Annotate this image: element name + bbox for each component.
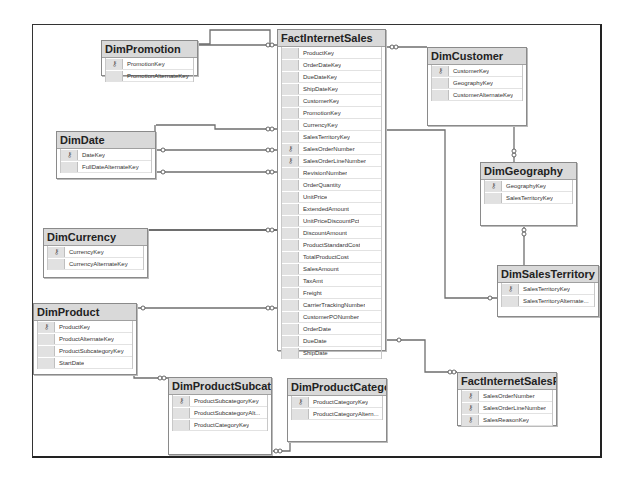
table-title[interactable]: DimCurrency [44, 229, 147, 246]
column-row[interactable]: UnitPriceDiscountPct [282, 215, 381, 227]
column-selector[interactable] [282, 276, 299, 286]
table-title[interactable]: DimGeography [481, 163, 576, 180]
primary-key-icon[interactable]: ⚷ [485, 181, 502, 191]
primary-key-icon[interactable]: ⚷ [61, 150, 78, 160]
column-selector[interactable] [292, 409, 309, 419]
column-selector[interactable] [38, 358, 55, 368]
primary-key-icon[interactable]: ⚷ [48, 247, 65, 257]
column-selector[interactable] [282, 108, 299, 118]
column-row[interactable]: ShipDateKey [282, 83, 381, 95]
column-row[interactable]: ⚷ProductKey [38, 321, 132, 333]
column-row[interactable]: CarrierTrackingNumber [282, 299, 381, 311]
column-row[interactable]: ProductKey [282, 47, 381, 59]
column-row[interactable]: ProductAlternateKey [38, 333, 132, 345]
column-selector[interactable] [282, 60, 299, 70]
column-row[interactable]: TaxAmt [282, 275, 381, 287]
column-selector[interactable] [282, 324, 299, 334]
column-row[interactable]: OrderQuantity [282, 179, 381, 191]
column-row[interactable]: CurrencyAlternateKey [48, 258, 143, 270]
table-dim-sales-territory[interactable]: DimSalesTerritory⚷SalesTerritoryKeySales… [497, 265, 599, 317]
column-row[interactable]: ProductStandardCost [282, 239, 381, 251]
table-dim-geography[interactable]: DimGeography⚷GeographyKeySalesTerritoryK… [480, 162, 577, 226]
column-selector[interactable] [502, 296, 519, 306]
column-row[interactable]: DueDate [282, 335, 381, 347]
column-selector[interactable] [282, 132, 299, 142]
primary-key-icon[interactable]: ⚷ [462, 391, 479, 401]
column-row[interactable]: TotalProductCost [282, 251, 381, 263]
column-selector[interactable] [282, 96, 299, 106]
table-title[interactable]: FactInternetSales [278, 30, 385, 47]
column-row[interactable]: ⚷SalesOrderLineNumber [462, 402, 552, 414]
primary-key-icon[interactable]: ⚷ [462, 403, 479, 413]
column-row[interactable]: OrderDateKey [282, 59, 381, 71]
column-selector[interactable] [282, 336, 299, 346]
column-row[interactable]: CurrencyKey [282, 119, 381, 131]
column-row[interactable]: GeographyKey [432, 77, 522, 89]
table-title[interactable]: DimDate [57, 132, 155, 149]
column-row[interactable]: ⚷SalesOrderLineNumber [282, 155, 381, 167]
primary-key-icon[interactable]: ⚷ [282, 144, 299, 154]
table-title[interactable]: FactInternetSalesRea [458, 373, 556, 390]
column-row[interactable]: DueDateKey [282, 71, 381, 83]
column-row[interactable]: CustomerAlternateKey [432, 89, 522, 101]
primary-key-icon[interactable]: ⚷ [462, 415, 479, 425]
primary-key-icon[interactable]: ⚷ [173, 396, 190, 406]
column-selector[interactable] [106, 71, 123, 81]
table-title[interactable]: DimProduct [34, 304, 136, 321]
table-dim-product[interactable]: DimProduct⚷ProductKeyProductAlternateKey… [33, 303, 137, 375]
column-row[interactable]: ExtendedAmount [282, 203, 381, 215]
column-row[interactable]: ⚷CustomerKey [432, 65, 522, 77]
column-row[interactable]: SalesTerritoryAlternate... [502, 295, 594, 307]
column-selector[interactable] [282, 84, 299, 94]
column-row[interactable]: RevisionNumber [282, 167, 381, 179]
column-selector[interactable] [282, 168, 299, 178]
column-selector[interactable] [282, 348, 299, 358]
column-row[interactable]: OrderDate [282, 323, 381, 335]
column-selector[interactable] [432, 78, 449, 88]
column-selector[interactable] [282, 192, 299, 202]
table-dim-product-category[interactable]: DimProductCategory⚷ProductCategoryKeyPro… [287, 378, 387, 442]
primary-key-icon[interactable]: ⚷ [292, 397, 309, 407]
column-row[interactable]: ProductCategoryAltern... [292, 408, 382, 420]
column-selector[interactable] [48, 259, 65, 269]
table-dim-product-subcategory[interactable]: DimProductSubcatego⚷ProductSubcategoryKe… [168, 377, 272, 455]
column-row[interactable]: SalesTerritoryKey [282, 131, 381, 143]
column-selector[interactable] [61, 162, 78, 172]
column-row[interactable]: PromotionAlternateKey [106, 70, 193, 82]
table-title[interactable]: DimCustomer [428, 48, 526, 65]
column-selector[interactable] [282, 288, 299, 298]
column-selector[interactable] [282, 312, 299, 322]
column-row[interactable]: Freight [282, 287, 381, 299]
primary-key-icon[interactable]: ⚷ [502, 284, 519, 294]
column-selector[interactable] [38, 346, 55, 356]
column-row[interactable]: ShipDate [282, 347, 381, 359]
primary-key-icon[interactable]: ⚷ [282, 156, 299, 166]
column-row[interactable]: ⚷SalesReasonKey [462, 414, 552, 426]
column-row[interactable]: ⚷ProductSubcategoryKey [173, 395, 267, 407]
column-row[interactable]: UnitPrice [282, 191, 381, 203]
column-selector[interactable] [282, 216, 299, 226]
column-selector[interactable] [282, 264, 299, 274]
column-row[interactable]: SalesTerritoryKey [485, 192, 572, 204]
table-title[interactable]: DimPromotion [102, 41, 197, 58]
column-selector[interactable] [282, 300, 299, 310]
table-dim-customer[interactable]: DimCustomer⚷CustomerKeyGeographyKeyCusto… [427, 47, 527, 126]
table-fact-internet-sales[interactable]: FactInternetSalesProductKeyOrderDateKeyD… [277, 29, 386, 351]
column-selector[interactable] [173, 420, 190, 430]
primary-key-icon[interactable]: ⚷ [432, 66, 449, 76]
column-row[interactable]: DiscountAmount [282, 227, 381, 239]
column-selector[interactable] [485, 193, 502, 203]
column-row[interactable]: ⚷SalesTerritoryKey [502, 283, 594, 295]
column-selector[interactable] [282, 240, 299, 250]
column-row[interactable]: ⚷GeographyKey [485, 180, 572, 192]
column-row[interactable]: ProductCategoryKey [173, 419, 267, 431]
column-selector[interactable] [432, 90, 449, 100]
column-row[interactable]: StartDate [38, 357, 132, 369]
column-row[interactable]: ⚷PromotionKey [106, 58, 193, 70]
column-row[interactable]: ProductSubcategoryAlt... [173, 407, 267, 419]
column-row[interactable]: ⚷SalesOrderNumber [282, 143, 381, 155]
column-row[interactable]: ProductSubcategoryKey [38, 345, 132, 357]
table-title[interactable]: DimSalesTerritory [498, 266, 598, 283]
column-selector[interactable] [282, 120, 299, 130]
column-selector[interactable] [282, 72, 299, 82]
